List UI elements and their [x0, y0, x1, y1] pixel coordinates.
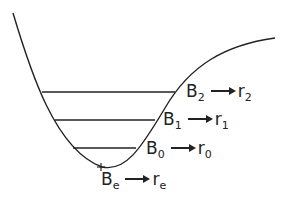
label-b0: B0r0 [146, 140, 212, 157]
label-b1: B1r1 [163, 111, 229, 128]
arrow-icon [211, 90, 233, 92]
label-be: Bere [101, 171, 166, 188]
label-b2: B2r2 [186, 83, 252, 100]
arrow-icon [125, 178, 147, 180]
arrow-icon [171, 147, 193, 149]
arrow-icon [188, 118, 210, 120]
